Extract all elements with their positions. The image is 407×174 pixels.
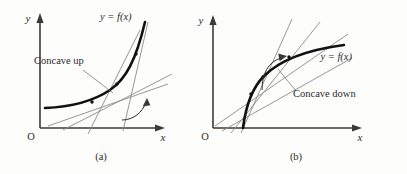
panel-a-tangent-point-3 [134, 52, 137, 55]
concavity-figure: y x O y = f(x) Concave up (a) y x O y [0, 0, 407, 174]
panel-b-tangent-point-3 [287, 55, 290, 58]
panel-b-caption: (b) [290, 151, 303, 163]
panel-a-y-axis-label: y [25, 12, 31, 24]
panel-a-annotation-leader [83, 70, 113, 93]
panel-a-sweep-arrow-path [122, 103, 146, 120]
panel-a-caption: (a) [95, 151, 107, 163]
panel-b-concavity-annotation: Concave down [293, 88, 356, 99]
panel-a-tangent-point-2 [115, 82, 118, 85]
panel-b-function-label: y = f(x) [319, 51, 352, 63]
panel-a-x-axis-label: x [160, 131, 166, 143]
panel-a-tangent-line-2 [88, 30, 140, 134]
panel-a-sweep-arrowhead [143, 98, 151, 106]
panel-b-x-axis-label: x [357, 131, 363, 143]
panel-a: y x O y = f(x) Concave up (a) [25, 11, 172, 163]
panel-b: y x O y = f(x) Concave down (b) [198, 14, 363, 163]
panel-a-function-label: y = f(x) [99, 11, 132, 23]
panel-b-tangent-point-1 [249, 92, 252, 95]
panel-a-y-axis-arrowhead [36, 13, 43, 23]
panel-b-y-axis-label: y [198, 14, 204, 26]
panel-b-origin-label: O [201, 131, 209, 142]
panel-a-origin-label: O [27, 131, 35, 142]
panel-a-concavity-annotation: Concave up [34, 55, 84, 66]
panel-a-tangent-point-1 [90, 100, 93, 103]
figure-canvas: y x O y = f(x) Concave up (a) y x O y [0, 0, 407, 174]
panel-b-y-axis-arrowhead [209, 15, 216, 25]
